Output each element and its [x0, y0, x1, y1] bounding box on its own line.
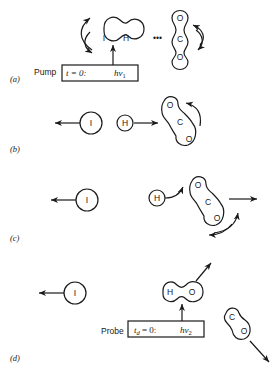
probe-label: Probe: [101, 326, 124, 336]
atom-i: I: [103, 33, 105, 43]
panel-c: I H O C O (c): [10, 177, 257, 243]
atom-c: C: [229, 312, 235, 322]
atom-i: I: [74, 288, 76, 298]
rotation-arrow-icon: [193, 25, 203, 45]
arrow-up-right-icon: [196, 263, 211, 281]
atom-h: H: [167, 287, 173, 297]
atom-o: O: [177, 52, 184, 62]
pump-label: Pump: [34, 67, 56, 77]
atom-o: O: [214, 213, 221, 223]
atom-h: H: [123, 33, 129, 43]
atom-o: O: [186, 134, 193, 144]
atom-i: I: [86, 195, 88, 205]
atom-c: C: [205, 197, 211, 207]
reaction-diagram: I H ••• O C O (a) Pump t = 0: hν1 I H O …: [0, 0, 277, 373]
atom-i: I: [90, 118, 92, 128]
pump-time: t = 0:: [66, 68, 87, 78]
atom-h: H: [154, 193, 160, 203]
ellipsis: •••: [153, 33, 162, 43]
atom-h: H: [122, 118, 128, 128]
panel-b: I H O C O (b): [10, 97, 200, 154]
panel-label: (d): [10, 353, 20, 363]
atom-c: C: [177, 117, 183, 127]
panel-d: I H O C O Probe td = 0: hν2 (d): [10, 263, 269, 363]
atom-o: O: [189, 287, 196, 297]
panel-label: (a): [10, 74, 20, 84]
atom-o: O: [177, 13, 184, 23]
atom-o: O: [167, 100, 174, 110]
atom-o: O: [241, 326, 248, 336]
panel-label: (b): [10, 144, 20, 154]
rotation-arrow-icon: [81, 18, 92, 50]
atom-o: O: [195, 180, 202, 190]
panel-a: I H ••• O C O (a) Pump t = 0: hν1: [10, 11, 203, 85]
approach-arrow-icon: [165, 187, 183, 198]
atom-c: C: [177, 34, 183, 44]
arrow-down-right-icon: [250, 341, 269, 362]
panel-label: (c): [10, 233, 20, 243]
rotation-arrow-icon: [196, 30, 202, 50]
